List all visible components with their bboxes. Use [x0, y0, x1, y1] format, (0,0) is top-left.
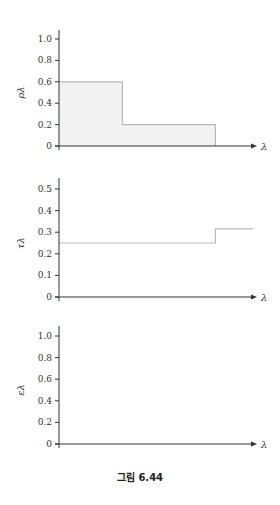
- y-tick-label: 0.5: [38, 184, 53, 194]
- y-tick-label: 0.3: [38, 227, 53, 237]
- y-tick-label: 0.2: [38, 249, 52, 259]
- x-axis-label: λ: [260, 439, 267, 450]
- figure-canvas: λ00.20.40.60.81.0ρλλ00.10.20.30.40.5τλλ0…: [0, 0, 280, 505]
- y-axis-label: τλ: [15, 237, 26, 249]
- y-tick-label: 0.1: [38, 270, 52, 280]
- x-axis-label: λ: [260, 292, 267, 303]
- x-axis-arrow-icon: [251, 144, 257, 149]
- y-axis-label: ελ: [15, 384, 26, 396]
- y-tick-label: 0.4: [38, 206, 53, 216]
- chart-reflectivity: λ00.20.40.60.81.0ρλ: [15, 30, 267, 152]
- x-axis-arrow-icon: [251, 295, 257, 300]
- figure-caption: 그림 6.44: [0, 469, 280, 484]
- y-tick-label: 0.2: [38, 417, 52, 427]
- y-tick-label: 0: [46, 439, 52, 449]
- y-tick-label: 0.2: [38, 120, 52, 130]
- y-tick-label: 0: [46, 141, 52, 151]
- y-tick-label: 0.8: [38, 353, 53, 363]
- y-axis-label: ρλ: [15, 86, 26, 99]
- y-tick-label: 0.6: [38, 77, 53, 87]
- x-axis-label: λ: [260, 141, 267, 152]
- y-tick-label: 0.6: [38, 374, 53, 384]
- x-axis-arrow-icon: [251, 442, 257, 447]
- y-tick-label: 0.4: [38, 396, 53, 406]
- y-tick-label: 1.0: [38, 34, 53, 44]
- chart-transmissivity: λ00.10.20.30.40.5τλ: [15, 178, 267, 303]
- y-tick-label: 0.8: [38, 55, 53, 65]
- y-tick-label: 0.4: [38, 98, 53, 108]
- chart-emissivity: λ00.20.40.60.81.0ελ: [15, 326, 267, 450]
- y-tick-label: 1.0: [38, 331, 53, 341]
- y-tick-label: 0: [46, 292, 52, 302]
- step-curve: [59, 229, 253, 243]
- area-fill: [59, 82, 215, 146]
